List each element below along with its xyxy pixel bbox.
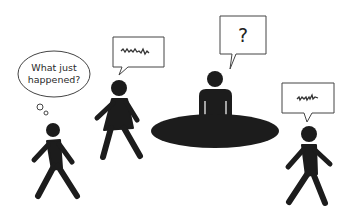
speech-bubble-question: ? [220, 16, 266, 69]
seated-person-icon [199, 71, 232, 118]
walking-woman-icon [97, 80, 140, 157]
thought-bubble: What just happened? [18, 51, 90, 115]
speech-bubble-right [282, 83, 334, 122]
thought-text-line1: What just [31, 62, 77, 73]
speech-bubble-woman [113, 37, 164, 75]
walking-man-left-icon [34, 123, 77, 196]
question-mark-text: ? [238, 24, 248, 46]
illustration-scene: What just happened? ? [0, 0, 354, 219]
walking-man-right-icon [288, 126, 330, 203]
table-icon [151, 114, 279, 148]
thought-text-line2: happened? [28, 74, 81, 85]
